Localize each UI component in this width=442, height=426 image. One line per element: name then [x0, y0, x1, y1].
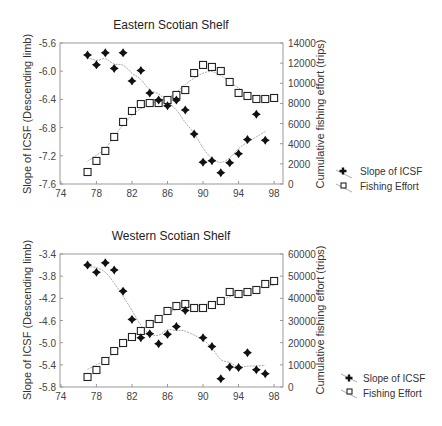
y2-tick-label: 14000	[288, 38, 316, 49]
y-tick-label: -3.8	[39, 271, 57, 282]
effort-point	[200, 61, 207, 68]
effort-point	[200, 304, 207, 311]
y-tick-label: -5.8	[39, 382, 57, 393]
effort-point	[120, 339, 127, 346]
x-tick-label: 94	[233, 188, 245, 199]
slope-trend-curve	[88, 58, 266, 163]
effort-point	[93, 157, 100, 164]
effort-point	[262, 95, 269, 102]
y2-tick-label: 10000	[288, 360, 316, 371]
slope-point	[110, 266, 119, 275]
y2-tick-label: 12000	[288, 58, 316, 69]
panel-eastern: Eastern Scotian Shelf Slope of ICSF (Des…	[21, 18, 422, 199]
x-tick-label: 74	[55, 188, 67, 199]
effort-trend-curve	[88, 285, 275, 369]
slope-point	[181, 105, 190, 114]
y-axis-label: Slope of ICSF (Descending limb)	[21, 240, 33, 400]
effort-point	[191, 304, 198, 311]
chart-canvas: Eastern Scotian Shelf Slope of ICSF (Des…	[0, 0, 442, 426]
slope-point	[216, 374, 225, 383]
legend-slope-label: Slope of ICSF	[360, 166, 422, 177]
legend: Slope of ICSF Fishing Effort	[336, 166, 422, 192]
y-axis-label: Slope of ICSF (Descending limb)	[21, 34, 33, 194]
effort-point	[84, 374, 91, 381]
effort-point	[173, 303, 180, 310]
legend-diamond-icon	[340, 168, 347, 175]
legend-square-icon	[347, 389, 352, 394]
effort-point	[182, 87, 189, 94]
effort-point	[155, 315, 162, 322]
effort-point	[120, 118, 127, 125]
y2-tick-label: 6000	[288, 119, 311, 130]
slope-point	[83, 261, 92, 270]
y2-tick-label: 0	[288, 382, 294, 393]
y-tick-label: -6.0	[39, 66, 57, 77]
effort-point	[217, 67, 224, 74]
y-tick-label: -3.4	[39, 249, 57, 260]
effort-point	[146, 100, 153, 107]
legend-square-icon	[341, 183, 346, 188]
legend-slope-label: Slope of ICSF	[363, 373, 425, 384]
effort-point	[244, 92, 251, 99]
slope-point	[145, 329, 154, 338]
y-tick-label: -5.6	[39, 38, 57, 49]
effort-point	[146, 321, 153, 328]
effort-point	[235, 291, 242, 298]
data-points	[83, 258, 278, 383]
effort-point	[271, 277, 278, 284]
slope-point	[127, 77, 136, 86]
chart-title: Eastern Scotian Shelf	[113, 18, 229, 32]
y-tick-label: -4.2	[39, 293, 57, 304]
slope-point	[243, 135, 252, 144]
x-tick-label: 86	[162, 391, 174, 402]
effort-point	[271, 94, 278, 101]
y2-tick-label: 40000	[288, 293, 316, 304]
slope-point	[207, 156, 216, 165]
y2-tick-label: 8000	[288, 98, 311, 109]
effort-point	[226, 288, 233, 295]
y2-tick-label: 60000	[288, 249, 316, 260]
effort-point	[102, 357, 109, 364]
slope-point	[207, 342, 216, 351]
effort-point	[235, 89, 242, 96]
effort-point	[111, 133, 118, 140]
x-tick-label: 82	[126, 188, 138, 199]
slope-point	[154, 339, 163, 348]
legend-effort-label: Fishing Effort	[360, 181, 419, 192]
y2-tick-label: 10000	[288, 78, 316, 89]
legend-diamond-icon	[346, 375, 353, 382]
effort-point	[164, 307, 171, 314]
x-tick-label: 74	[55, 391, 67, 402]
x-tick-label: 94	[233, 391, 245, 402]
effort-point	[93, 366, 100, 373]
slope-point	[119, 48, 128, 57]
slope-point	[234, 363, 243, 372]
slope-point	[83, 50, 92, 59]
y-tick-label: -7.2	[39, 151, 57, 162]
x-tick-label: 78	[91, 188, 103, 199]
effort-point	[262, 280, 269, 287]
legend: Slope of ICSF Fishing Effort	[341, 373, 425, 399]
y2-tick-label: 20000	[288, 338, 316, 349]
x-tick-label: 98	[269, 188, 281, 199]
effort-point	[253, 95, 260, 102]
y2-tick-label: 4000	[288, 139, 311, 150]
y-tick-label: -6.8	[39, 123, 57, 134]
slope-point	[101, 48, 110, 57]
slope-point	[234, 149, 243, 158]
effort-point	[208, 302, 215, 309]
chart-title: Western Scotian Shelf	[112, 229, 231, 243]
slope-point	[252, 110, 261, 119]
slope-point	[261, 369, 270, 378]
effort-point	[253, 286, 260, 293]
y-tick-label: -5.4	[39, 360, 57, 371]
data-points	[83, 48, 278, 177]
x-tick-label: 82	[126, 391, 138, 402]
slope-point	[110, 64, 119, 73]
y-tick-label: -4.6	[39, 316, 57, 327]
x-tick-label: 78	[91, 391, 103, 402]
effort-point	[102, 147, 109, 154]
y2-tick-label: 2000	[288, 159, 311, 170]
slope-point	[119, 287, 128, 296]
effort-point	[128, 107, 135, 114]
